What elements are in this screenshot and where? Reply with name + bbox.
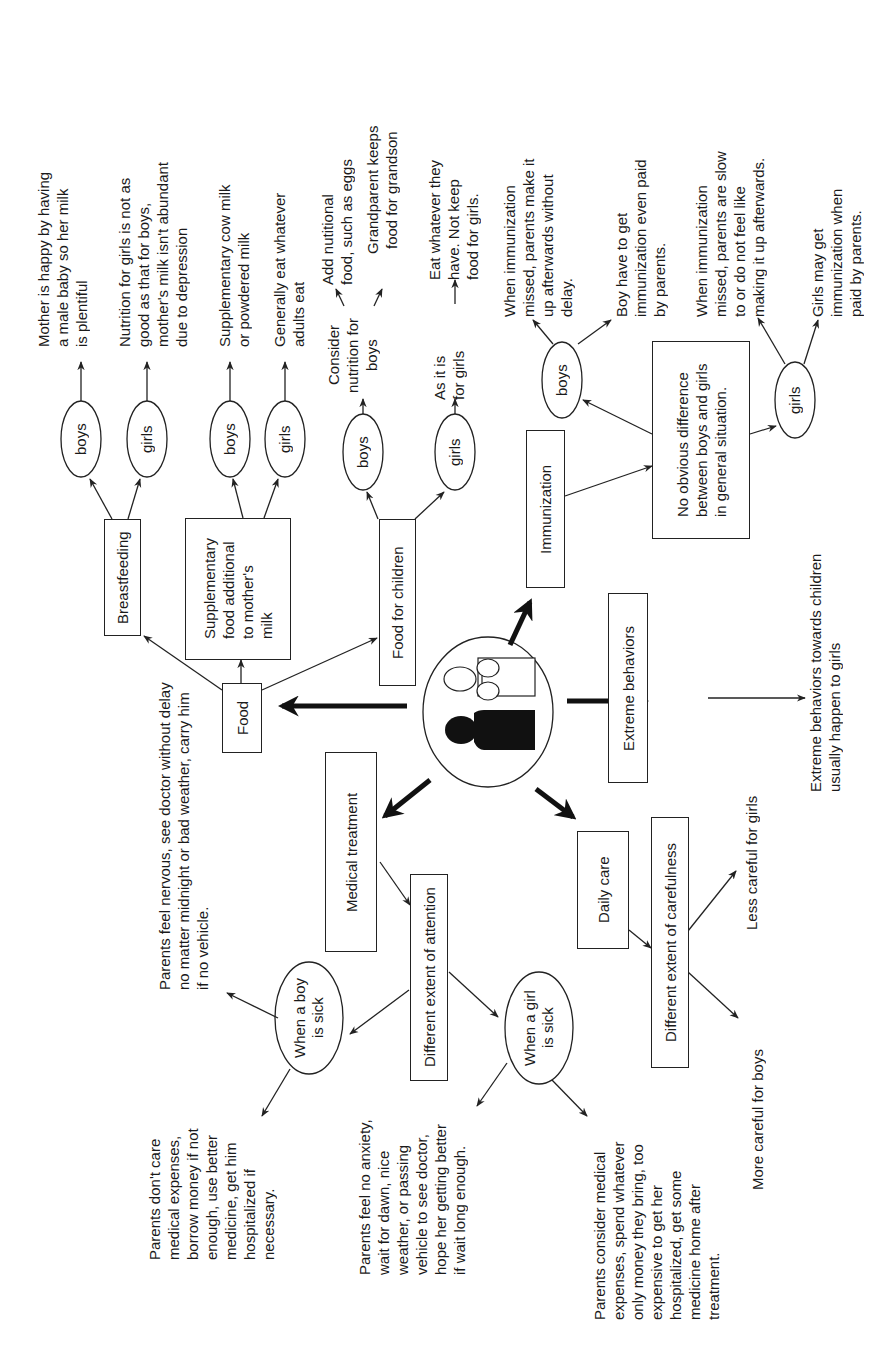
girl-sick-oval: When a girl is sick <box>505 972 573 1084</box>
consider-nutrition-boys: Consider nutrition for boys <box>324 310 386 400</box>
medical-treatment-label: Medical treatment <box>342 792 361 911</box>
extreme-behaviors-label: Extreme behaviors <box>619 625 638 750</box>
food-box: Food <box>222 683 262 753</box>
immunization-boys-note-2: Boy have to get immunization even paid b… <box>612 100 676 317</box>
breastfeeding-label: Breastfeeding <box>113 531 132 624</box>
breastfeeding-boys-oval: boys <box>61 401 101 477</box>
supplementary-girls-note: Generally eat whatever adults eat <box>270 120 315 347</box>
different-extent-carefulness-label: Different extent of carefulness <box>661 843 680 1042</box>
food-label: Food <box>233 701 252 735</box>
boy-sick-note-2: Parents don't care medical expenses, bor… <box>145 1120 275 1260</box>
extreme-behaviors-note: Extreme behaviors towards children usual… <box>806 520 851 792</box>
supplementary-boys-oval: boys <box>210 401 250 477</box>
breastfeeding-boys-note: Mother is happy by having a male baby so… <box>34 60 109 347</box>
arrow-to-medical <box>385 780 430 816</box>
immunization-box: Immunization <box>526 430 565 588</box>
immunization-label: Immunization <box>536 464 555 553</box>
boy-sick-note-1: Parents feel nervous, see doctor without… <box>155 680 221 990</box>
children-boys-oval: boys <box>343 414 383 490</box>
arrow-to-immunization <box>510 602 530 645</box>
supplementary-boys-note: Supplementary cow milk or powdered milk <box>215 120 260 347</box>
daily-care-label: Daily care <box>594 857 613 924</box>
immunization-girls-note-1: When immunization missed, parents are sl… <box>692 100 778 317</box>
extreme-behaviors-box: Extreme behaviors <box>608 593 648 783</box>
immunization-boys-oval: boys <box>542 342 582 418</box>
breastfeeding-girls-note: Nutrition for girls is not as good as th… <box>115 60 195 347</box>
daily-care-box: Daily care <box>577 831 629 949</box>
breastfeeding-box: Breastfeeding <box>104 519 141 636</box>
as-it-is-for-girls: As it is for girls <box>430 310 475 400</box>
girl-sick-note-1: Parents feel no anxiety, wait for dawn, … <box>355 1095 485 1275</box>
supplementary-food-label: Supplementary food additional to mother'… <box>200 539 276 640</box>
children-girls-oval: girls <box>435 414 475 490</box>
medical-treatment-box: Medical treatment <box>325 752 377 952</box>
different-extent-carefulness-box: Different extent of carefulness <box>651 817 689 1068</box>
no-obvious-difference-label: No obvious difference between boys and g… <box>673 363 730 516</box>
supplementary-food-box: Supplementary food additional to mother'… <box>185 518 291 660</box>
breastfeeding-girls-oval: girls <box>127 401 167 477</box>
parent-and-child-icon <box>444 658 535 750</box>
different-extent-attention-box: Different extent of attention <box>410 874 448 1081</box>
immunization-boys-note-1: When immunization missed, parents make i… <box>500 95 586 317</box>
different-extent-attention-label: Different extent of attention <box>420 888 439 1068</box>
girl-sick-note-2: Parents consider medical expenses, spend… <box>590 1110 735 1320</box>
arrow-to-daily-care <box>536 789 573 817</box>
immunization-girls-note-2: Girls may get immunization when paid by … <box>808 150 872 317</box>
less-careful-girls-note: Less careful for girls <box>742 740 764 930</box>
food-for-children-label: Food for children <box>388 546 407 659</box>
add-nutritional-food-note: Add nutitional food, such as eggs <box>318 95 363 285</box>
immunization-girls-oval: girls <box>775 362 815 438</box>
supplementary-girls-oval: girls <box>265 401 305 477</box>
eat-whatever-note: Eat whatever they have. Not keep food fo… <box>425 125 490 280</box>
grandparent-keeps-food-note: Grandparent keeps food for grandson <box>363 95 408 285</box>
no-obvious-difference-box: No obvious difference between boys and g… <box>652 341 750 539</box>
boy-sick-oval: When a boy is sick <box>275 962 343 1074</box>
food-for-children-box: Food for children <box>379 519 416 686</box>
more-careful-boys-note: More careful for boys <box>748 950 770 1190</box>
